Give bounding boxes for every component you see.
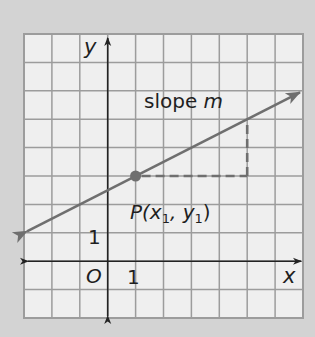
y-tick-label: 1 (88, 225, 101, 249)
origin-label: O (86, 264, 102, 288)
y-axis-label: y (83, 35, 97, 59)
point-p (130, 171, 141, 182)
x-tick-label: 1 (127, 265, 140, 289)
slope-label: slope m (144, 89, 223, 113)
diagram-svg: y x O 1 1 slope m P(x1, y1) (0, 0, 315, 337)
x-axis-label: x (282, 264, 296, 288)
coordinate-diagram: y x O 1 1 slope m P(x1, y1) (0, 0, 315, 337)
